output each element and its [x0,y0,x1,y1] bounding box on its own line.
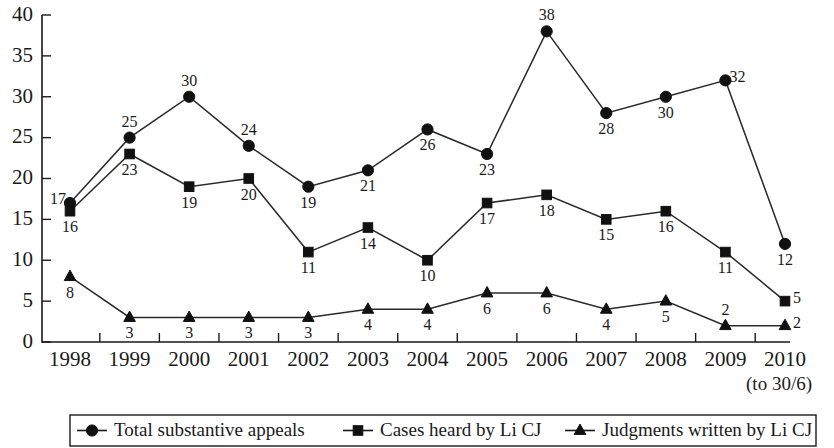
circle-marker-icon [779,238,790,249]
x-axis-tick-label: 2003 [347,347,389,371]
data-point-value-label: 26 [420,136,436,153]
legend-item: Judgments written by Li CJ [565,419,812,440]
x-axis-tick-label: 1999 [109,347,151,371]
data-point-value-label: 3 [245,324,253,341]
data-point-value-label: 23 [122,161,138,178]
square-marker-icon [601,215,611,225]
y-axis-tick-label: 5 [23,288,34,312]
y-axis-tick-label: 25 [12,124,33,148]
data-point-value-label: 32 [729,68,745,85]
legend-item-label: Total substantive appeals [114,419,305,440]
circle-marker-icon [481,148,492,159]
legend-item-label: Cases heard by Li CJ [380,419,541,440]
triangle-marker-icon [64,270,76,280]
circle-marker-icon [541,26,552,37]
square-marker-icon [304,247,314,257]
data-point-value-label: 38 [539,6,555,23]
square-marker-icon [423,255,433,265]
data-point-value-label: 14 [360,235,376,252]
square-marker-icon [780,296,790,306]
data-point-value-label: 17 [479,210,495,227]
triangle-marker-icon [124,311,136,321]
y-axis-tick-label: 30 [12,84,33,108]
y-axis-tick-label: 35 [12,43,33,67]
data-point-value-label: 5 [793,289,801,306]
x-axis-tick-label: 2001 [228,347,270,371]
square-marker-icon [482,198,492,208]
legend-item: Total substantive appeals [77,419,305,440]
data-point-value-label: 8 [66,284,74,301]
triangle-marker-icon [660,295,672,305]
circle-marker-icon [422,124,433,135]
data-point-value-label: 19 [181,194,197,211]
x-axis-tick-label: 2009 [704,347,746,371]
x-axis-tick-label: 2000 [168,347,210,371]
square-marker-icon [65,206,75,216]
line-chart: 0510152025303540 19981999200020012002200… [0,0,834,448]
triangle-marker-icon [779,319,791,329]
y-axis-tick-labels: 0510152025303540 [12,2,33,353]
square-marker-icon [353,426,363,436]
data-point-value-label: 19 [300,194,316,211]
x-axis-tick-label: 2006 [526,347,568,371]
data-point-value-label: 10 [420,267,436,284]
axis-lines [42,15,790,342]
square-marker-icon [363,223,373,233]
circle-marker-icon [303,181,314,192]
data-point-value-label: 11 [301,259,316,276]
legend-item-label: Judgments written by Li CJ [602,419,812,440]
y-axis-tick-label: 20 [12,165,33,189]
chart-annotation: (to 30/6) [746,373,812,395]
data-point-value-label: 18 [539,202,555,219]
circle-marker-icon [243,140,254,151]
x-axis-tick-label: 2010 [764,347,806,371]
circle-marker-icon [660,91,671,102]
data-point-value-label: 4 [424,316,432,333]
circle-marker-icon [86,425,97,436]
circle-marker-icon [362,165,373,176]
data-point-value-label: 24 [241,121,257,138]
data-point-value-label: 30 [181,72,197,89]
data-point-value-label: 30 [658,104,674,121]
data-point-value-label: 12 [777,251,793,268]
square-marker-icon [721,247,731,257]
data-point-value-label: 21 [360,177,376,194]
y-axis-tick-label: 15 [12,206,33,230]
circle-marker-icon [124,132,135,143]
data-point-value-label: 11 [718,259,733,276]
triangle-marker-icon [243,311,255,321]
triangle-marker-icon [183,311,195,321]
triangle-marker-icon [362,303,374,313]
chart-container: 0510152025303540 19981999200020012002200… [0,0,834,448]
x-axis-tick-label: 2008 [645,347,687,371]
data-point-value-label: 28 [598,120,614,137]
data-point-value-label: 6 [483,300,491,317]
data-point-value-label: 4 [602,316,610,333]
square-marker-icon [542,190,552,200]
chart-axes [42,15,790,342]
chart-legend: Total substantive appealsCases heard by … [70,415,816,446]
triangle-marker-icon [541,287,553,297]
data-point-value-label: 4 [364,316,372,333]
circle-marker-icon [184,91,195,102]
triangle-marker-icon [574,424,586,434]
square-marker-icon [184,182,194,192]
x-axis-tick-label: 1998 [49,347,91,371]
x-axis-tick-label: 2004 [407,347,450,371]
square-marker-icon [661,206,671,216]
x-axis-tick-label: 2007 [585,347,627,371]
data-point-value-label: 5 [662,308,670,325]
data-point-value-label: 2 [793,314,801,331]
square-marker-icon [244,174,254,184]
x-axis-tick-labels: 1998199920002001200220032004200520062007… [49,347,806,371]
x-axis-tick-label: 2002 [287,347,329,371]
data-point-value-label: 3 [126,324,134,341]
y-axis-tick-label: 10 [12,247,33,271]
data-point-value-label: 25 [122,113,138,130]
data-point-value-label: 16 [62,218,78,235]
square-marker-icon [125,149,135,159]
y-axis-tick-label: 0 [23,329,34,353]
data-point-value-label: 16 [658,218,674,235]
x-axis-tick-label: 2005 [466,347,508,371]
data-point-value-label: 17 [50,190,66,207]
